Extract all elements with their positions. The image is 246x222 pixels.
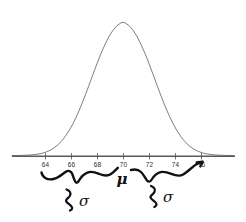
tick-label-68: 68	[94, 161, 102, 168]
left-closing-brace-icon	[66, 190, 72, 211]
tick-label-70: 70	[120, 161, 128, 168]
tick-label-66: 66	[68, 161, 76, 168]
right-closing-brace-icon	[151, 186, 157, 207]
tick-label-72: 72	[146, 161, 154, 168]
left-sigma-symbol: σ	[79, 192, 90, 210]
bell-curve-path	[12, 22, 234, 155]
right-sigma-symbol: σ	[163, 188, 174, 206]
axis-tick-labels: 64 66 68 70 72 74 76	[42, 161, 206, 168]
right-sigma-brace-icon	[131, 162, 202, 182]
normal-distribution-figure: 64 66 68 70 72 74 76 μ σ σ	[0, 0, 246, 222]
tick-label-74: 74	[172, 161, 180, 168]
tick-label-64: 64	[42, 161, 50, 168]
left-sigma-brace-icon	[42, 168, 118, 183]
distribution-chart-svg: 64 66 68 70 72 74 76 μ σ σ	[0, 0, 246, 222]
mu-symbol: μ	[117, 170, 128, 188]
